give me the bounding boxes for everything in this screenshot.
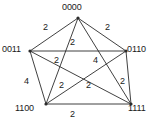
graph-diagram-canvas: 00000011011011001111 2242222422 (0, 0, 156, 127)
vertex-label: 1100 (15, 104, 34, 113)
edge-weight-label: 2 (43, 23, 48, 32)
graph-vertex-node (76, 16, 79, 19)
edge-weight-label: 2 (59, 81, 64, 90)
edge-weight-label: 2 (70, 110, 75, 119)
edge-weight-label: 2 (54, 56, 59, 65)
vertex-label: 0011 (2, 45, 21, 54)
edge-weight-label: 2 (86, 81, 91, 90)
graph-edge (126, 51, 131, 104)
edge-weight-label: 2 (70, 38, 75, 47)
graph-vertex-node (28, 49, 31, 52)
graph-vertex-node (44, 102, 47, 105)
edge-weight-label: 2 (120, 77, 125, 86)
edge-weight-label: 4 (24, 77, 29, 86)
edge-weight-label: 4 (93, 56, 98, 65)
vertex-label: 0110 (127, 45, 146, 54)
graph-edge (78, 18, 126, 51)
graph-edge (46, 18, 78, 104)
edge-weight-label: 2 (105, 23, 110, 32)
vertex-label: 1111 (128, 104, 146, 113)
graph-edge (30, 51, 46, 104)
graph-edge (30, 51, 131, 104)
vertex-label: 0000 (62, 3, 82, 12)
